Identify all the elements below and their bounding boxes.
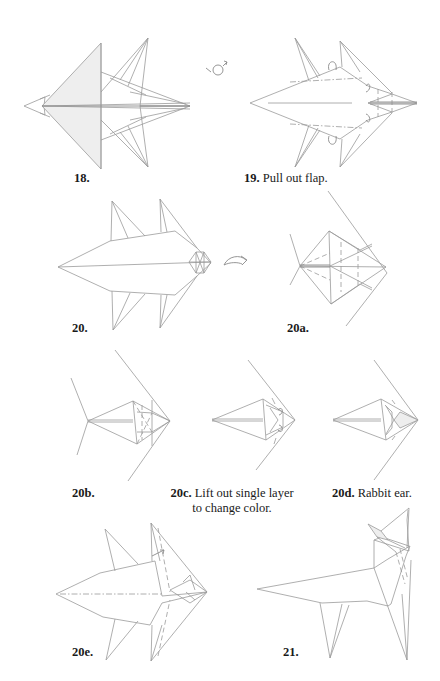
step-instruction-line1: Lift out single layer (195, 486, 294, 500)
step-20e-label: 20e. (72, 645, 93, 660)
step-18-label: 18. (74, 171, 90, 186)
step-20d-diagram (333, 360, 418, 480)
step-number: 21. (283, 645, 299, 659)
step-20c-diagram (212, 360, 295, 470)
step-20a-diagram (290, 191, 387, 326)
step-20-diagram (58, 199, 211, 330)
step-number: 20b. (72, 486, 95, 500)
step-20b-diagram (71, 350, 170, 481)
step-21-diagram (257, 508, 411, 660)
step-20d-label: 20d. Rabbit ear. (332, 486, 412, 501)
step-number: 20a. (287, 321, 309, 335)
step-20e-diagram (56, 523, 207, 661)
rotate-arrow-icon (224, 256, 247, 265)
step-instruction: Rabbit ear. (358, 486, 412, 500)
step-19-diagram (250, 38, 417, 167)
step-20b-label: 20b. (72, 486, 95, 501)
step-number: 20c. (170, 486, 191, 500)
step-instruction-line2: to change color. (192, 501, 272, 515)
step-number: 20e. (72, 645, 93, 659)
step-number: 20d. (332, 486, 355, 500)
diagram-page: 18. 19. Pull out flap. 20. 20a. 20b. 20c… (0, 0, 440, 681)
step-20-label: 20. (72, 321, 88, 336)
step-number: 20. (72, 321, 88, 335)
step-20c-label: 20c. Lift out single layer to change col… (170, 486, 294, 516)
step-20a-label: 20a. (287, 321, 309, 336)
step-number: 18. (74, 171, 90, 185)
step-19-label: 19. Pull out flap. (244, 171, 328, 186)
diagram-canvas (0, 0, 440, 681)
step-instruction: Pull out flap. (263, 171, 328, 185)
step-21-label: 21. (283, 645, 299, 660)
step-number: 19. (244, 171, 260, 185)
turn-over-icon (206, 61, 227, 75)
step-18-diagram (24, 38, 190, 169)
